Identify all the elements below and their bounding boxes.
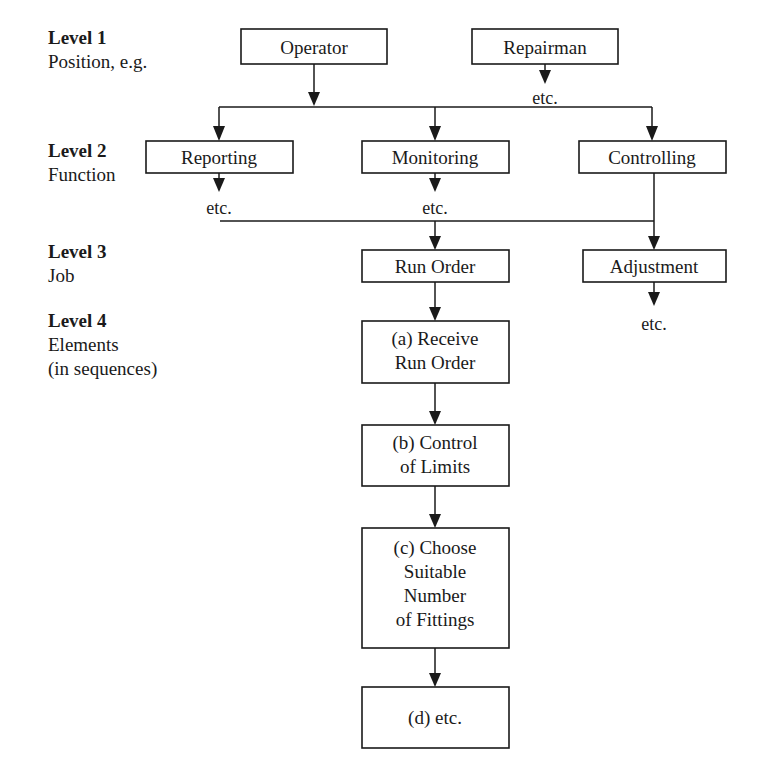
etc-repairman-label: etc. bbox=[532, 88, 557, 108]
node-element-b-line-2: of Limits bbox=[400, 456, 470, 477]
node-element-c-line-2: Suitable bbox=[404, 561, 466, 582]
node-element-c-line-4: of Fittings bbox=[396, 609, 475, 630]
node-controlling-label: Controlling bbox=[608, 147, 696, 168]
connector-runorder-to-element-a bbox=[429, 282, 441, 321]
connector-monitoring-to-etc bbox=[429, 172, 441, 192]
connector-element-a-to-b bbox=[429, 383, 441, 425]
node-reporting[interactable]: Reporting bbox=[146, 141, 293, 173]
arrowhead-icon bbox=[429, 178, 441, 192]
node-element-c-line-1: (c) Choose bbox=[394, 537, 477, 559]
arrowhead-icon bbox=[646, 126, 658, 141]
node-monitoring-label: Monitoring bbox=[392, 147, 479, 168]
node-element-a-line-2: Run Order bbox=[395, 352, 476, 373]
node-element-a[interactable]: (a) Receive Run Order bbox=[362, 321, 509, 383]
arrowhead-icon bbox=[429, 673, 441, 687]
arrowhead-icon bbox=[429, 307, 441, 321]
level-4-subtitle: Elements bbox=[48, 334, 119, 355]
arrowhead-icon bbox=[429, 411, 441, 425]
node-repairman-label: Repairman bbox=[503, 37, 587, 58]
level-1-label-group: Level 1 Position, e.g. bbox=[48, 27, 147, 72]
node-element-d-label: (d) etc. bbox=[408, 707, 462, 729]
arrowhead-icon bbox=[539, 70, 551, 84]
node-run-order[interactable]: Run Order bbox=[362, 250, 509, 282]
level-2-title: Level 2 bbox=[48, 140, 107, 161]
level-2-label-group: Level 2 Function bbox=[48, 140, 116, 185]
node-adjustment[interactable]: Adjustment bbox=[583, 250, 726, 282]
node-operator[interactable]: Operator bbox=[241, 29, 387, 64]
connector-repairman-to-etc bbox=[539, 64, 551, 84]
level-3-title: Level 3 bbox=[48, 241, 107, 262]
node-operator-label: Operator bbox=[280, 37, 348, 58]
etc-monitoring-label: etc. bbox=[422, 198, 447, 218]
hierarchy-flowchart: Level 1 Position, e.g. Level 2 Function … bbox=[0, 0, 757, 776]
level-4-extra: (in sequences) bbox=[48, 358, 157, 380]
arrowhead-icon bbox=[213, 178, 225, 192]
arrowhead-icon bbox=[429, 514, 441, 528]
level-3-subtitle: Job bbox=[48, 265, 74, 286]
connector-operator-to-bus bbox=[308, 64, 320, 106]
connector-element-c-to-d bbox=[429, 648, 441, 687]
bus-level2-to-level3 bbox=[220, 221, 654, 250]
node-adjustment-label: Adjustment bbox=[610, 256, 699, 277]
node-element-c[interactable]: (c) Choose Suitable Number of Fittings bbox=[362, 528, 509, 648]
etc-reporting-label: etc. bbox=[206, 198, 231, 218]
level-4-label-group: Level 4 Elements (in sequences) bbox=[48, 310, 157, 380]
level-1-subtitle: Position, e.g. bbox=[48, 51, 147, 72]
connector-reporting-to-etc bbox=[213, 172, 225, 192]
level-1-title: Level 1 bbox=[48, 27, 107, 48]
arrowhead-icon bbox=[429, 236, 441, 250]
arrowhead-icon bbox=[648, 236, 660, 250]
arrowhead-icon bbox=[213, 126, 225, 141]
node-reporting-label: Reporting bbox=[181, 147, 257, 168]
node-element-a-line-1: (a) Receive bbox=[391, 328, 478, 350]
node-element-b-line-1: (b) Control bbox=[393, 432, 478, 454]
level-2-subtitle: Function bbox=[48, 164, 116, 185]
level-4-title: Level 4 bbox=[48, 310, 107, 331]
node-repairman[interactable]: Repairman bbox=[472, 29, 618, 64]
connector-adjustment-to-etc bbox=[648, 282, 660, 306]
connector-controlling-to-adjustment bbox=[648, 172, 660, 250]
node-element-d[interactable]: (d) etc. bbox=[362, 687, 509, 748]
node-run-order-label: Run Order bbox=[395, 256, 476, 277]
node-monitoring[interactable]: Monitoring bbox=[362, 141, 509, 173]
etc-adjustment-label: etc. bbox=[641, 314, 666, 334]
arrowhead-icon bbox=[429, 126, 441, 141]
bus-level1-to-level2 bbox=[213, 107, 658, 141]
node-controlling[interactable]: Controlling bbox=[579, 141, 726, 173]
node-element-c-line-3: Number bbox=[404, 585, 467, 606]
level-3-label-group: Level 3 Job bbox=[48, 241, 107, 286]
arrowhead-icon bbox=[308, 92, 320, 106]
node-element-b[interactable]: (b) Control of Limits bbox=[362, 425, 509, 486]
connector-element-b-to-c bbox=[429, 486, 441, 528]
flowchart-canvas: Level 1 Position, e.g. Level 2 Function … bbox=[0, 0, 757, 776]
arrowhead-icon bbox=[648, 292, 660, 306]
